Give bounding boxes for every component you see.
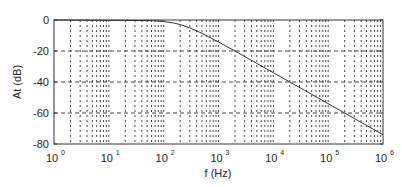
x-tick-label: 10: [265, 152, 277, 164]
x-tick-exponent: 5: [335, 149, 339, 156]
attenuation-curve: [54, 20, 383, 135]
grid-lines: [54, 20, 383, 144]
x-axis-label: f (Hz): [205, 167, 232, 179]
x-tick-exponent: 0: [61, 149, 65, 156]
x-tick-exponent: 1: [116, 149, 120, 156]
x-tick-exponent: 6: [390, 149, 394, 156]
x-tick-label: 10: [46, 152, 58, 164]
x-tick-exponent: 4: [280, 149, 284, 156]
y-tick-label: -80: [33, 138, 49, 150]
x-tick-label: 10: [375, 152, 387, 164]
y-tick-label: -40: [33, 76, 49, 88]
y-axis-label: At (dB): [11, 65, 23, 99]
y-tick-label: -20: [33, 45, 49, 57]
x-tick-exponent: 3: [226, 149, 230, 156]
bode-magnitude-chart: 0-20-40-60-80 100101102103104105106 f (H…: [0, 0, 402, 187]
y-tick-label: 0: [43, 14, 49, 26]
series-line: [54, 20, 383, 135]
x-tick-label: 10: [156, 152, 168, 164]
x-tick-labels: 100101102103104105106: [46, 149, 394, 164]
x-tick-label: 10: [101, 152, 113, 164]
x-tick-exponent: 2: [171, 149, 175, 156]
y-tick-label: -60: [33, 107, 49, 119]
x-tick-label: 10: [210, 152, 222, 164]
x-tick-label: 10: [320, 152, 332, 164]
